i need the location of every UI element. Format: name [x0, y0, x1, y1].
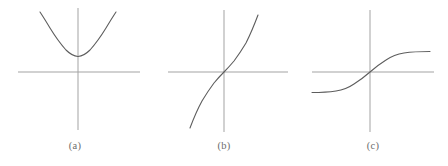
- panel-a-caption: (a): [0, 140, 150, 151]
- figure-three-curve-panels: (a) (b) (c): [0, 0, 448, 166]
- panel-a: (a): [0, 0, 150, 166]
- panel-b-caption: (b): [150, 140, 298, 151]
- panel-b: (b): [150, 0, 298, 166]
- panel-c: (c): [298, 0, 448, 166]
- panel-c-caption: (c): [298, 140, 448, 151]
